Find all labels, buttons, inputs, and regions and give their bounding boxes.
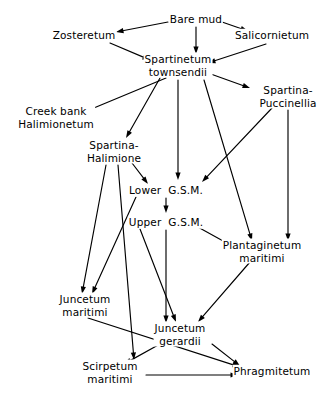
arrowhead-spartinetum-to-spartina_pucc bbox=[242, 83, 250, 88]
node-label-line: Lower G.S.M. bbox=[129, 184, 203, 197]
edge-line-spartinetum-to-creek_bank bbox=[89, 78, 166, 110]
node-label-line: maritimi bbox=[223, 251, 302, 264]
node-label-line: Plantaginetum bbox=[223, 239, 302, 252]
edge-line-salicornietum-to-spartinetum bbox=[213, 44, 266, 61]
node-label-line: Spartinetum bbox=[145, 53, 212, 66]
node-label-line: townsendii bbox=[145, 65, 212, 78]
edge-line-spartinetum-to-spartina_pucc bbox=[208, 73, 245, 86]
node-label-line: Zosteretum bbox=[53, 29, 116, 42]
arrowhead-spartinetum-to-lower_gsm bbox=[175, 173, 180, 181]
node-label-line: gerardii bbox=[155, 334, 206, 347]
node-lower_gsm: Lower G.S.M. bbox=[128, 184, 204, 197]
edge-line-upper_gsm-to-juncetum_ger bbox=[140, 229, 174, 317]
succession-diagram: Bare mudZosteretumSalicornietumSpartinet… bbox=[0, 0, 330, 396]
node-scirpetum: Scirpetummaritimi bbox=[81, 360, 138, 385]
arrowhead-spartinetum-to-spartina_halim bbox=[126, 130, 132, 138]
node-label-line: Salicornietum bbox=[235, 29, 309, 42]
node-label-line: Juncetum bbox=[60, 293, 111, 306]
node-label-line: Juncetum bbox=[155, 322, 206, 335]
node-label-line: maritimi bbox=[60, 305, 111, 318]
node-upper_gsm: Upper G.S.M. bbox=[128, 216, 204, 229]
node-label-line: Puccinellia bbox=[259, 96, 316, 109]
node-label-line: Halimionetum bbox=[18, 117, 94, 130]
edge-line-plantaginetum-to-juncetum_ger bbox=[202, 262, 250, 318]
edge-line-juncetum_ger-to-phragmitetum bbox=[212, 344, 236, 363]
edge-line-bare_mud-to-zosteretum bbox=[121, 22, 168, 31]
node-label-line: Halimione bbox=[87, 151, 141, 164]
node-label-line: Bare mud bbox=[170, 13, 222, 26]
node-label-line: Spartina- bbox=[259, 84, 316, 97]
node-zosteretum: Zosteretum bbox=[52, 29, 117, 42]
node-salicornietum: Salicornietum bbox=[234, 29, 310, 42]
node-label-line: Upper G.S.M. bbox=[129, 216, 203, 229]
node-label-line: Creek bank bbox=[18, 105, 94, 118]
edge-line-spartinetum-to-plantaginetum bbox=[204, 80, 250, 236]
edge-line-spartinetum-to-spartina_halim bbox=[129, 78, 160, 133]
node-plantaginetum: Plantaginetummaritimi bbox=[222, 239, 303, 264]
node-spartina_pucc: Spartina-Puccinellia bbox=[258, 84, 317, 109]
arrowhead-lower_gsm-to-upper_gsm bbox=[163, 206, 168, 214]
edge-line-lower_gsm-to-juncetum_mar bbox=[94, 197, 136, 289]
edge-line-spartina_halim-to-lower_gsm bbox=[132, 163, 145, 180]
node-spartina_halim: Spartina-Halimione bbox=[86, 139, 142, 164]
node-label-line: maritimi bbox=[82, 372, 137, 385]
edge-line-zosteretum-to-spartinetum bbox=[110, 43, 145, 58]
node-phragmitetum: Phragmitetum bbox=[233, 365, 312, 378]
node-juncetum_mar: Juncetummaritimi bbox=[59, 293, 112, 318]
node-creek_bank: Creek bankHalimionetum bbox=[17, 105, 95, 130]
node-bare_mud: Bare mud bbox=[169, 13, 223, 26]
node-label-line: Spartina- bbox=[87, 139, 141, 152]
node-spartinetum: Spartinetumtownsendii bbox=[144, 53, 213, 78]
node-label-line: Scirpetum bbox=[82, 360, 137, 373]
node-juncetum_ger: Juncetumgerardii bbox=[154, 322, 207, 347]
node-label-line: Phragmitetum bbox=[234, 365, 311, 378]
arrowhead-bare_mud-to-zosteretum bbox=[116, 28, 124, 33]
